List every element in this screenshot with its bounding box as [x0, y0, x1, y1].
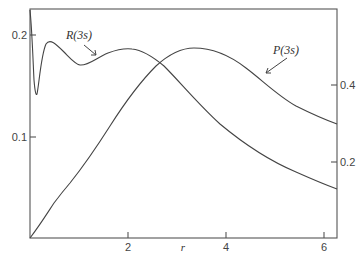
y-right-label-0-2: 0.2: [340, 156, 355, 168]
x-axis-label: r: [181, 241, 186, 253]
x-tick-label-2: 2: [125, 241, 131, 253]
chart: 2 r 4 6 0.2 0.1 0.4 0.2 R(3s) P(3s): [0, 0, 363, 259]
r-3s-arrow-icon: [84, 45, 96, 55]
x-tick-label-6: 6: [321, 241, 327, 253]
r-3s-label: R(3s): [65, 28, 92, 42]
p-3s-arrow-icon: [266, 58, 287, 73]
x-tick-label-4: 4: [223, 241, 229, 253]
y-left-label-0-1: 0.1: [12, 131, 27, 143]
p-3s-label: P(3s): [272, 43, 299, 57]
p-3s-curve: [30, 48, 337, 238]
y-left-label-0-2: 0.2: [12, 29, 27, 41]
y-right-label-0-4: 0.4: [340, 79, 355, 91]
